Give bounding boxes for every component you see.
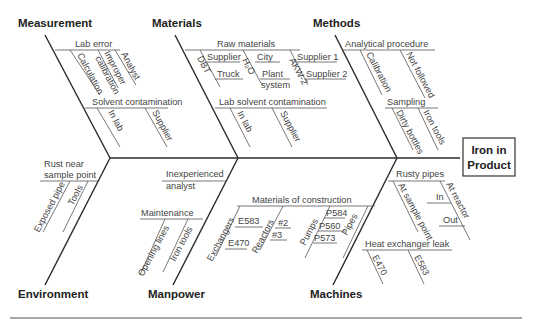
label-hx-leak: Heat exchanger leak [365,239,450,249]
label-rust-near: Rust near [44,159,84,169]
label-calibration: Calibration [364,50,393,93]
label-maintenance: Maintenance [141,208,194,218]
label-rusty-pipes: Rusty pipes [396,169,444,179]
label-e470: E470 [228,238,249,248]
label-exposed-pipe: Exposed pipe [32,180,67,234]
label-solvent-contamination: Solvent contamination [92,97,182,107]
label-in-lab: In lab [235,109,254,134]
label-supplier: Supplier [278,109,303,143]
fishbone-diagram: Iron in Product Measurement Materials Me… [0,0,534,323]
category-methods: Methods [313,17,360,29]
label-raw-materials: Raw materials [217,39,276,49]
label-out: Out [443,215,458,225]
label-analytical: Analytical procedure [345,39,428,49]
category-environment: Environment [18,288,88,300]
label-at-sample-point: At sample point [396,181,435,242]
label-r2: #2 [278,218,288,228]
category-machines: Machines [310,288,362,300]
label-tools: Tools [66,183,85,207]
label-truck: Truck [217,69,240,79]
label-h2o: H₂O [240,56,257,76]
label-not-followed: Not followed [404,50,437,99]
label-system: system [261,80,290,90]
label-plant: Plant [262,69,283,79]
label-in: In [436,192,444,202]
label-city: City [257,52,273,62]
label-moc: Materials of construction [252,195,352,205]
label-p573: P573 [314,233,335,243]
effect-label-line2: Product [467,159,511,171]
label-p584: P584 [326,208,347,218]
label-sample-point: sample point [44,170,97,180]
category-manpower: Manpower [148,288,205,300]
category-materials: Materials [152,17,202,29]
effect-label-line1: Iron in [471,144,506,156]
label-hx-e470: E470 [370,253,389,277]
label-lab-solvent: Lab solvent contamination [219,97,326,107]
category-measurement: Measurement [18,17,92,29]
bone-machines [333,158,397,285]
label-analyst: analyst [166,181,196,191]
label-supplier: Supplier [207,52,241,62]
label-opening-lines: Opening lines [136,223,171,278]
label-iron-tools: Iron tools [168,225,195,263]
label-lab-error: Lab error [75,39,112,49]
label-iron-tools: Iron tools [421,108,448,146]
label-r3: #3 [272,230,282,240]
label-p560: P560 [319,221,340,231]
label-supplier-1: Supplier 1 [297,52,338,62]
label-e583: E583 [238,216,259,226]
label-inexperienced: Inexperienced [166,169,224,179]
label-supplier-2: Supplier 2 [306,69,347,79]
fishbone-canvas: Iron in Product Measurement Materials Me… [0,0,534,323]
label-supplier: Supplier [150,108,175,142]
label-sampling: Sampling [387,97,425,107]
